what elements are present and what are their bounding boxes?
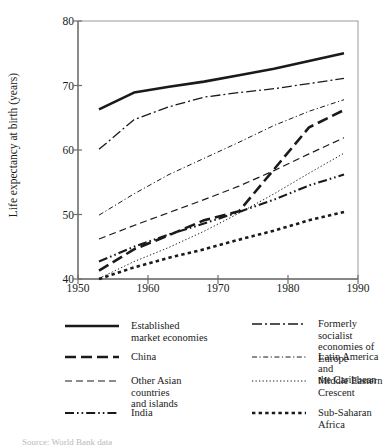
legend-swatch	[250, 318, 310, 332]
source-note: Source: World Bank data	[22, 437, 112, 446]
legend-swatch	[250, 375, 310, 389]
legend-swatch	[63, 351, 123, 365]
legend-swatch	[63, 407, 123, 421]
legend-label: Sub-Saharan Africa	[310, 407, 385, 430]
legend-label: India	[123, 407, 153, 419]
legend-item[interactable]: Middle EasternCrescent	[250, 375, 382, 398]
series-line	[99, 212, 344, 279]
legend-label: Establishedmarket economies	[123, 320, 208, 343]
legend-item[interactable]: Sub-Saharan Africa	[250, 407, 385, 430]
legend-swatch	[250, 407, 310, 421]
series-line	[99, 100, 344, 215]
legend-item[interactable]: India	[63, 407, 153, 421]
series-line	[99, 110, 344, 271]
line-chart-plot	[0, 0, 385, 300]
legend-item[interactable]: Establishedmarket economies	[63, 320, 208, 343]
legend-item[interactable]: Other Asian countriesand islands	[63, 375, 213, 410]
legend-swatch	[63, 375, 123, 389]
chart-legend: Establishedmarket economiesChinaOther As…	[0, 318, 385, 436]
chart-area: Life expectancy at birth (years) 4050607…	[0, 0, 385, 300]
series-line	[99, 53, 344, 109]
legend-swatch	[63, 320, 123, 334]
legend-item[interactable]: China	[63, 351, 156, 365]
legend-label: Other Asian countriesand islands	[123, 375, 213, 410]
series-line	[99, 78, 344, 149]
legend-swatch	[250, 351, 310, 365]
series-line	[99, 138, 344, 239]
legend-label: Middle EasternCrescent	[310, 375, 382, 398]
legend-label: China	[123, 351, 156, 363]
